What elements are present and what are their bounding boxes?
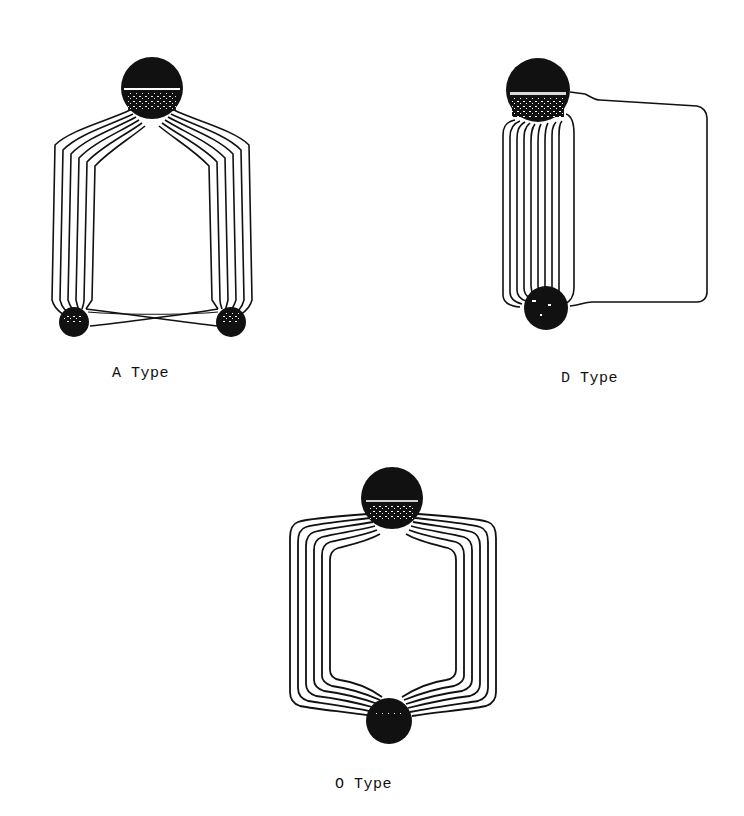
d-bottom-ball [524,286,568,330]
d-type-diagram [503,58,707,330]
a-top-ball [121,57,183,119]
a-crossing-wires [86,309,218,326]
o-bottom-ball [366,698,412,744]
d-wire-bundle [503,114,574,307]
o-left-wire-bundle [290,514,382,716]
figure-canvas [0,0,744,816]
o-type-diagram [290,467,496,744]
d-type-caption: D Type [561,370,618,387]
a-left-small-ball [59,307,89,337]
o-right-wire-bundle [402,514,496,716]
o-type-caption: O Type [335,776,392,793]
o-top-ball [361,467,423,529]
d-top-ball [506,58,570,122]
a-right-small-ball [216,307,246,337]
a-left-wire-bundle [52,110,145,318]
a-type-diagram [52,57,252,337]
d-outer-loop [570,92,707,306]
a-right-wire-bundle [159,110,252,318]
a-type-caption: A Type [112,365,169,382]
